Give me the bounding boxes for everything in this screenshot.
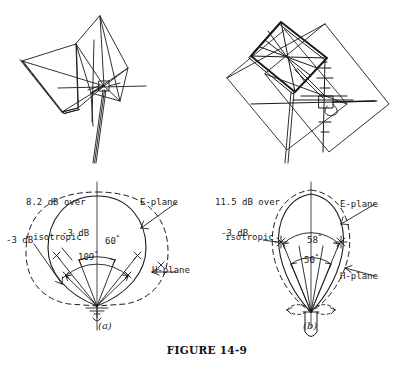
figure-caption: FIGURE 14-9 bbox=[0, 344, 414, 356]
degree-symbol-e-b: ° bbox=[318, 233, 322, 241]
minus3db-label-b: -3 dB bbox=[221, 228, 248, 239]
gain-label-a: 8.2 dB over isotropic bbox=[26, 174, 86, 266]
antenna-drawing-a bbox=[0, 0, 207, 165]
antenna-drawing-b bbox=[207, 0, 414, 165]
beamwidth-h-label-b: 50° bbox=[304, 252, 319, 266]
degree-symbol-h-a: ° bbox=[94, 250, 98, 258]
h-plane-label-b: H-plane bbox=[340, 271, 378, 282]
h-plane-label-a: H-plane bbox=[152, 265, 190, 276]
e-plane-label-b: E-plane bbox=[340, 199, 378, 210]
beamwidth-e-label-a: 60° bbox=[105, 233, 120, 247]
beamwidth-e-value-a: 60 bbox=[105, 236, 116, 246]
gain-label-a-line1: 8.2 dB over bbox=[26, 197, 86, 209]
beamwidth-h-value-b: 50 bbox=[304, 255, 315, 265]
minus3db-label-a-outer: -3 dB bbox=[6, 235, 33, 246]
degree-symbol-e-a: ° bbox=[116, 234, 120, 242]
beamwidth-h-label-a: 109° bbox=[78, 249, 98, 263]
beamwidth-e-label-b: 58° bbox=[307, 232, 322, 246]
degree-symbol-h-b: ° bbox=[315, 253, 319, 261]
beamwidth-e-value-b: 58 bbox=[307, 235, 318, 245]
gain-label-b-line1: 11.5 dB over bbox=[215, 197, 280, 209]
gain-label-b: 11.5 dB over isotropic bbox=[215, 174, 280, 266]
e-plane-label-a: E-plane bbox=[140, 197, 178, 208]
beamwidth-h-value-a: 109 bbox=[78, 252, 94, 262]
panel-b: 11.5 dB over isotropic E-plane H-plane -… bbox=[207, 0, 414, 373]
subcaption-b: (b) bbox=[303, 320, 317, 331]
subcaption-a: (a) bbox=[98, 320, 112, 331]
panel-a: 8.2 dB over isotropic E-plane H-plane -3… bbox=[0, 0, 207, 373]
figure-14-9: 8.2 dB over isotropic E-plane H-plane -3… bbox=[0, 0, 414, 373]
minus3db-label-a-inner: -3 dB bbox=[62, 228, 89, 239]
